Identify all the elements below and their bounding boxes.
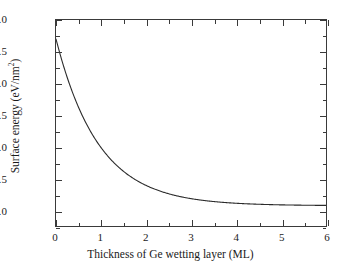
x-tick-major <box>56 220 57 226</box>
x-tick-major-top <box>283 20 284 26</box>
x-tick-minor <box>260 223 261 227</box>
figure-container: 6.06.57.07.58.08.59.0 0123456 Thickness … <box>0 0 341 272</box>
x-tick-major-top <box>328 20 329 26</box>
x-tick-minor-top <box>124 20 125 24</box>
x-axis-title: Thickness of Ge wetting layer (ML) <box>0 248 341 260</box>
x-tick-major <box>192 220 193 226</box>
x-tick-major-top <box>147 20 148 26</box>
y-tick-major-right <box>320 116 326 117</box>
x-tick-label: 6 <box>307 232 341 243</box>
x-tick-label: 1 <box>80 232 120 243</box>
x-tick-major <box>147 220 148 226</box>
x-tick-major <box>283 220 284 226</box>
y-tick-minor-right <box>323 132 327 133</box>
y-tick-label: 7.5 <box>0 110 7 121</box>
y-tick-minor-right <box>323 228 327 229</box>
y-tick-major-right <box>320 20 326 21</box>
x-tick-label: 0 <box>35 232 75 243</box>
y-tick-minor-right <box>323 164 327 165</box>
y-tick-major-right <box>320 180 326 181</box>
x-tick-label: 4 <box>216 232 256 243</box>
x-tick-major-top <box>101 20 102 26</box>
x-tick-major-top <box>56 20 57 26</box>
x-tick-minor <box>169 223 170 227</box>
y-axis-title-text: Surface energy (eV/nm <box>9 66 21 173</box>
data-curve-svg <box>56 20 326 226</box>
x-tick-minor-top <box>305 20 306 24</box>
y-tick-major <box>56 212 62 213</box>
data-curve-path <box>56 39 326 205</box>
y-tick-minor <box>56 36 60 37</box>
x-tick-minor <box>79 223 80 227</box>
y-tick-minor <box>56 228 60 229</box>
x-tick-minor <box>124 223 125 227</box>
y-tick-major <box>56 84 62 85</box>
y-axis-title-tail: ) <box>9 59 21 63</box>
y-axis-title: Surface energy (eV/nm2) <box>9 12 21 220</box>
y-tick-label: 9.0 <box>0 14 7 25</box>
y-axis-title-superscript: 2 <box>7 63 16 67</box>
y-tick-major-right <box>320 52 326 53</box>
plot-area <box>55 19 327 227</box>
y-tick-minor-right <box>323 68 327 69</box>
y-tick-major <box>56 148 62 149</box>
y-tick-major-right <box>320 148 326 149</box>
y-tick-label: 8.5 <box>0 46 7 57</box>
y-tick-label: 7.0 <box>0 142 7 153</box>
x-tick-major-top <box>237 20 238 26</box>
x-tick-minor-top <box>215 20 216 24</box>
y-tick-label: 8.0 <box>0 78 7 89</box>
y-tick-major-right <box>320 84 326 85</box>
y-tick-minor <box>56 100 60 101</box>
y-tick-minor <box>56 196 60 197</box>
x-tick-label: 5 <box>262 232 302 243</box>
y-tick-major <box>56 116 62 117</box>
x-tick-major <box>328 220 329 226</box>
y-tick-minor <box>56 164 60 165</box>
y-tick-label: 6.0 <box>0 206 7 217</box>
x-tick-minor-top <box>169 20 170 24</box>
x-tick-label: 2 <box>126 232 166 243</box>
y-tick-label: 6.5 <box>0 174 7 185</box>
x-tick-major <box>101 220 102 226</box>
y-tick-minor <box>56 132 60 133</box>
y-tick-major <box>56 180 62 181</box>
x-tick-major-top <box>192 20 193 26</box>
x-tick-minor <box>305 223 306 227</box>
y-tick-major <box>56 52 62 53</box>
x-tick-major <box>237 220 238 226</box>
x-tick-minor-top <box>79 20 80 24</box>
y-tick-major-right <box>320 212 326 213</box>
y-tick-minor-right <box>323 100 327 101</box>
y-tick-minor-right <box>323 196 327 197</box>
x-tick-minor-top <box>260 20 261 24</box>
x-tick-minor <box>215 223 216 227</box>
y-tick-minor-right <box>323 36 327 37</box>
y-tick-minor <box>56 68 60 69</box>
x-tick-label: 3 <box>171 232 211 243</box>
